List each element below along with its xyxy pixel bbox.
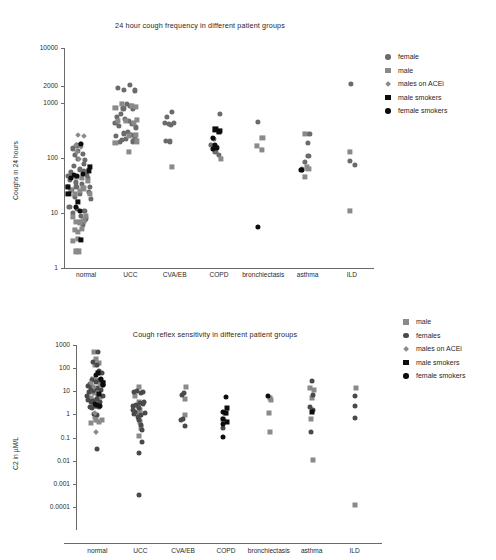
data-point	[85, 179, 90, 184]
square-marker-icon	[385, 95, 391, 101]
legend-item-label: females	[416, 332, 441, 339]
diamond-marker-icon	[76, 156, 82, 162]
data-point	[266, 411, 271, 416]
y-axis-tick-label: 10000	[18, 44, 58, 51]
data-point	[164, 114, 169, 119]
data-point	[75, 150, 79, 154]
y-axis-tick	[61, 158, 64, 159]
legend-item-males-on-acei[interactable]: males on ACEi	[400, 342, 465, 356]
circle-marker-icon	[71, 163, 76, 168]
y-axis-tick	[73, 484, 76, 485]
circle-swatch-icon	[400, 373, 412, 379]
circle-marker-icon	[133, 125, 138, 130]
data-point	[126, 150, 131, 155]
legend-item-females[interactable]: females	[400, 329, 465, 343]
diamond-marker-icon	[91, 384, 97, 390]
legend-item-female[interactable]: female	[382, 50, 447, 64]
data-point	[255, 119, 260, 124]
y-axis-tick	[73, 438, 76, 439]
square-marker-icon	[169, 164, 174, 169]
square-marker-icon	[137, 433, 142, 438]
data-point	[81, 186, 86, 191]
legend-item-label: male smokers	[416, 359, 460, 366]
square-marker-icon	[119, 101, 124, 106]
data-point	[133, 133, 138, 138]
data-point	[299, 168, 304, 173]
data-point	[305, 141, 310, 146]
legend-item-female-smokers[interactable]: female smokers	[400, 369, 465, 383]
square-marker-icon	[99, 417, 104, 422]
y-axis-tick-label: 1	[18, 264, 58, 271]
circle-marker-icon	[116, 124, 121, 129]
data-point	[352, 162, 357, 167]
data-point	[134, 139, 139, 144]
square-swatch-icon	[382, 95, 394, 101]
circle-marker-icon	[182, 424, 187, 429]
square-marker-icon	[217, 128, 222, 133]
data-point	[210, 136, 215, 141]
circle-marker-icon	[81, 161, 86, 166]
circle-marker-icon	[115, 85, 120, 90]
data-point	[100, 383, 105, 388]
circle-marker-icon	[68, 175, 73, 180]
square-marker-icon	[113, 141, 118, 146]
data-point	[182, 390, 187, 395]
data-point	[182, 424, 187, 429]
circle-marker-icon	[94, 447, 99, 452]
circle-marker-icon	[140, 389, 145, 394]
data-point	[66, 192, 71, 197]
square-marker-icon	[347, 149, 352, 154]
data-point	[94, 430, 98, 434]
circle-marker-icon	[266, 394, 271, 399]
data-point	[93, 411, 97, 415]
data-point	[259, 147, 264, 152]
data-point	[352, 393, 357, 398]
data-point	[169, 164, 174, 169]
diamond-marker-icon	[74, 149, 80, 155]
circle-marker-icon	[307, 132, 312, 137]
square-marker-icon	[306, 166, 311, 171]
square-marker-icon	[79, 176, 84, 181]
data-point	[255, 225, 260, 230]
legend-item-male[interactable]: male	[382, 64, 447, 78]
data-point	[308, 417, 313, 422]
legend-item-female-smokers[interactable]: female smokers	[382, 104, 447, 118]
circle-marker-icon	[352, 162, 357, 167]
data-point	[182, 397, 187, 402]
circle-marker-icon	[217, 111, 222, 116]
circle-marker-icon	[164, 114, 169, 119]
square-marker-icon	[310, 457, 315, 462]
legend-item-male-smokers[interactable]: male smokers	[400, 356, 465, 370]
data-point	[115, 85, 120, 90]
square-marker-icon	[353, 503, 358, 508]
legend-item-males-on-acei[interactable]: males on ACEi	[382, 77, 447, 91]
data-point	[308, 430, 313, 435]
square-marker-icon	[126, 150, 131, 155]
square-marker-icon	[182, 397, 187, 402]
data-point	[347, 149, 352, 154]
circle-marker-icon	[220, 425, 225, 430]
legend-item-label: males on ACEi	[398, 80, 444, 87]
y-axis-title-bottom: C2 in µM/L	[12, 437, 19, 470]
data-point	[126, 134, 131, 139]
circle-marker-icon	[181, 416, 186, 421]
diamond-marker-icon	[93, 418, 99, 424]
square-marker-icon	[84, 213, 89, 218]
square-marker-icon	[86, 168, 91, 173]
chart-title-bottom: Cough reflex sensitivity in different pa…	[75, 330, 355, 339]
circle-marker-icon	[352, 393, 357, 398]
diamond-marker-icon	[93, 429, 99, 435]
data-point	[113, 141, 118, 146]
square-marker-icon	[133, 133, 138, 138]
y-axis-tick-label: 1000	[30, 341, 70, 348]
data-point	[311, 392, 316, 397]
data-point	[119, 101, 124, 106]
circle-marker-icon	[221, 409, 226, 414]
legend-item-male-smokers[interactable]: male smokers	[382, 91, 447, 105]
data-point	[181, 416, 186, 421]
y-axis-tick-label: 0.01	[30, 457, 70, 464]
circle-marker-icon	[182, 390, 187, 395]
data-point	[123, 118, 128, 123]
legend-item-male[interactable]: male	[400, 315, 465, 329]
circle-marker-icon	[80, 151, 85, 156]
